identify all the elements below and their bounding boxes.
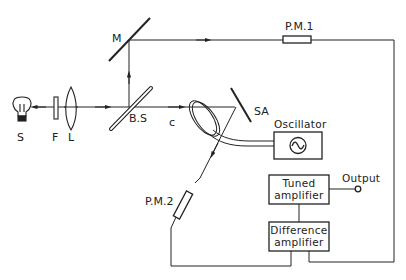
optical-setup-diagram: S F L B.S M P.M.1 SA c [0, 0, 406, 280]
tuned-amplifier-line1: Tuned [282, 177, 316, 189]
lens-label: L [68, 131, 75, 144]
output-terminal [355, 186, 361, 192]
beam-splitter-label: B.S [129, 112, 147, 125]
lightbulb-icon [13, 97, 31, 121]
sample [231, 88, 251, 122]
photomultiplier-2 [173, 191, 192, 219]
mirror-label: M [112, 32, 122, 45]
output-label: Output [342, 172, 380, 184]
source-label: S [17, 131, 24, 144]
pm2-label: P.M.2 [145, 195, 173, 208]
sample-label: SA [254, 105, 269, 118]
pm1-label: P.M.1 [285, 20, 313, 33]
difference-amplifier-line2: amplifier [274, 236, 324, 248]
oscillator-label: Oscillator [274, 118, 327, 130]
coil-label: c [169, 116, 175, 129]
filter [54, 97, 58, 119]
tuned-amplifier-line2: amplifier [274, 189, 324, 201]
filter-label: F [52, 131, 58, 144]
difference-amplifier-line1: Difference [270, 224, 327, 236]
photomultiplier-1 [283, 36, 311, 43]
reflected-beam [200, 107, 236, 178]
lens [66, 87, 77, 130]
